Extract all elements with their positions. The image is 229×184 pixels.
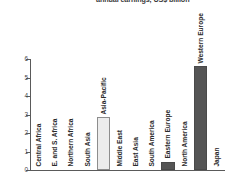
category-label: South America [150,121,157,167]
bar[interactable] [194,66,208,170]
y-tick-label: 4 [24,93,28,100]
category-label: Eastern Europe [166,110,173,159]
category-label: South Asia [85,133,92,167]
category-label: Asia-Pacific [101,77,108,114]
y-tick-label: 6 [24,56,28,63]
category-label: Central Africa [36,124,43,167]
category-label: Western Europe [198,13,205,63]
y-tick-label: 2 [24,130,28,137]
bar[interactable] [97,117,111,170]
category-label: E. and S. Africa [53,119,60,167]
bar-chart-figure: annual earnings, US$ billion 0123456 Cen… [0,0,229,184]
category-label: Japan [214,148,221,167]
plot-area: 0123456 Central AfricaE. and S. AfricaNo… [0,0,229,184]
category-label: East Asia [133,138,140,167]
y-tick-label: 1 [24,149,28,156]
y-tick-label: 0 [24,167,28,174]
category-label: North America [182,122,189,167]
y-tick-label: 5 [24,75,28,82]
bar[interactable] [161,162,175,170]
bar-series: Central AfricaE. and S. AfricaNorthern A… [31,0,225,184]
category-label: Northern Africa [69,119,76,167]
y-tick-label: 3 [24,112,28,119]
category-label: Middle East [117,130,124,167]
